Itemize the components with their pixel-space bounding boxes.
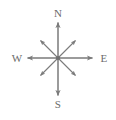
ray-southeast [58, 58, 76, 76]
compass-rose-figure: N E S W [0, 0, 116, 120]
compass-label-west: W [9, 53, 25, 64]
compass-label-east: E [96, 53, 112, 64]
ray-northwest [41, 41, 59, 59]
cardinal-rays [28, 23, 93, 96]
compass-label-south: S [50, 99, 66, 110]
ray-southwest [41, 58, 59, 76]
compass-center-hub [56, 56, 60, 60]
ray-northeast [58, 41, 76, 59]
compass-label-north: N [50, 8, 66, 19]
